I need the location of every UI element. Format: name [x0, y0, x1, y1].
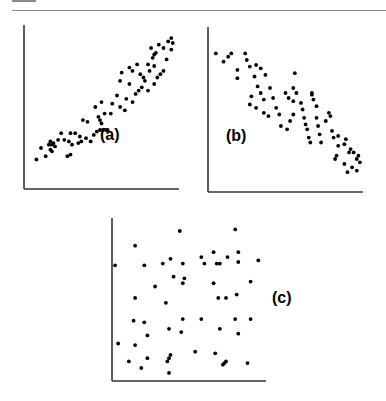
data-point	[183, 276, 187, 280]
data-point	[226, 55, 230, 59]
data-point	[346, 170, 350, 174]
data-point	[146, 334, 150, 338]
data-point	[256, 259, 260, 263]
data-point	[267, 114, 271, 118]
data-point	[256, 85, 260, 89]
data-point	[343, 142, 347, 146]
data-point	[248, 65, 252, 69]
data-point	[254, 63, 258, 67]
data-point	[248, 103, 252, 107]
data-point	[355, 157, 359, 161]
data-point	[148, 69, 152, 73]
data-point	[98, 118, 102, 122]
data-point	[178, 229, 182, 233]
data-point	[212, 281, 216, 285]
data-point	[127, 82, 131, 86]
data-point	[212, 250, 216, 254]
data-point	[52, 141, 56, 145]
data-point	[268, 86, 272, 90]
data-point	[134, 92, 138, 96]
data-point	[166, 40, 170, 44]
data-point	[73, 131, 77, 135]
data-point	[143, 79, 147, 83]
data-point	[76, 141, 80, 145]
data-point	[352, 151, 356, 155]
data-point	[86, 120, 90, 124]
data-point	[329, 114, 333, 118]
data-point	[118, 105, 122, 109]
data-point	[305, 127, 309, 131]
data-point	[167, 356, 171, 360]
data-point	[181, 281, 185, 285]
data-point	[50, 149, 54, 153]
data-point	[333, 157, 337, 161]
data-point	[172, 275, 176, 279]
data-point	[304, 123, 308, 127]
data-point	[259, 91, 263, 95]
data-point	[113, 263, 117, 267]
data-point	[53, 145, 57, 149]
data-point	[151, 56, 155, 60]
data-point	[233, 317, 237, 321]
data-point	[274, 106, 278, 110]
data-point	[347, 151, 351, 155]
data-point	[138, 72, 142, 76]
data-point	[133, 343, 137, 347]
data-point	[249, 317, 253, 321]
data-point	[133, 244, 137, 248]
panel-label-b: (b)	[226, 127, 246, 144]
data-point	[84, 136, 88, 140]
panel-label-c: (c)	[272, 289, 292, 306]
data-point	[131, 69, 135, 73]
data-point	[116, 342, 120, 346]
data-point	[124, 97, 128, 101]
data-point	[288, 119, 292, 123]
data-point	[93, 105, 97, 109]
data-point	[167, 371, 171, 375]
data-point	[262, 98, 266, 102]
data-point	[299, 101, 303, 105]
data-point	[222, 60, 226, 64]
data-point	[243, 52, 247, 56]
data-point	[100, 100, 104, 104]
data-point	[162, 46, 166, 50]
data-point	[344, 137, 348, 141]
data-point	[245, 58, 249, 62]
data-point	[216, 296, 220, 300]
data-point	[120, 71, 124, 75]
data-point	[324, 119, 328, 123]
data-point	[312, 98, 316, 102]
data-point	[152, 82, 156, 86]
data-point	[149, 46, 153, 50]
data-point	[229, 52, 233, 56]
panel-label-a: (a)	[100, 126, 120, 143]
data-point	[169, 36, 173, 40]
data-point	[262, 111, 266, 115]
scatter-plot-b: (b)	[208, 27, 363, 192]
data-point	[284, 91, 288, 95]
data-point	[253, 75, 257, 79]
data-point	[115, 94, 119, 98]
data-point	[159, 72, 163, 76]
data-point	[310, 93, 314, 97]
scatter-plot-a: (a)	[24, 25, 179, 189]
data-point	[236, 76, 240, 80]
data-point	[162, 69, 166, 73]
data-point	[218, 327, 222, 331]
scatter-figure: (a) (b) (c)	[0, 0, 386, 401]
data-point	[81, 118, 85, 122]
data-point	[69, 131, 73, 135]
data-point	[161, 262, 165, 266]
data-point	[203, 262, 207, 266]
data-point	[169, 48, 173, 52]
data-point	[287, 96, 291, 100]
data-point	[291, 86, 295, 90]
data-point	[133, 296, 137, 300]
data-point	[327, 111, 331, 115]
data-point	[123, 108, 127, 112]
data-point	[142, 320, 146, 324]
data-point	[153, 285, 157, 289]
data-point	[308, 141, 312, 145]
data-point	[67, 140, 71, 144]
data-point	[165, 58, 169, 62]
